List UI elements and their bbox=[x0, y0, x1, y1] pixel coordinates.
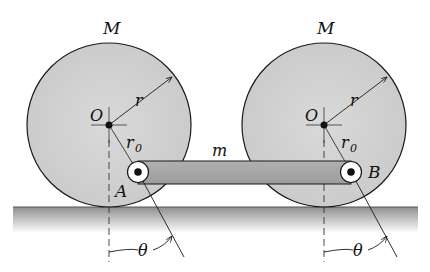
radius-label-right: r bbox=[350, 91, 359, 110]
radius-label-left: r bbox=[135, 91, 144, 110]
angle-label-left: θ bbox=[138, 241, 148, 260]
offset-label-left: r bbox=[126, 133, 135, 152]
pin-label-b: B bbox=[367, 162, 381, 182]
pin-label-a: A bbox=[113, 181, 127, 201]
offset-label-right: r bbox=[341, 133, 350, 152]
center-label-right: O bbox=[305, 106, 318, 125]
ground bbox=[13, 207, 418, 233]
bar-mass-label: m bbox=[212, 141, 227, 160]
diagram-canvas: M M O O r r r 0 r 0 m A B θ θ bbox=[0, 0, 430, 272]
offset-sub-left: 0 bbox=[135, 142, 142, 155]
connecting-bar bbox=[138, 161, 351, 184]
pin-a bbox=[128, 162, 149, 183]
pin-b bbox=[341, 162, 362, 183]
angle-label-right: θ bbox=[353, 241, 363, 260]
theta-arc-right bbox=[324, 249, 353, 252]
center-label-left: O bbox=[90, 106, 103, 125]
theta-arc-left bbox=[109, 249, 138, 252]
theta-arrow-left-icon bbox=[153, 236, 172, 250]
mass-label-right: M bbox=[316, 18, 335, 38]
offset-sub-right: 0 bbox=[350, 142, 357, 155]
mass-label-left: M bbox=[102, 18, 121, 38]
theta-arrow-right-icon bbox=[368, 236, 387, 250]
